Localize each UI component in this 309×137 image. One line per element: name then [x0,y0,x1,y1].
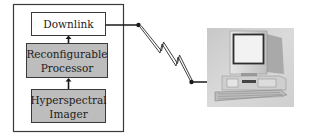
imager-block: Hyperspectral Imager [30,90,107,123]
imager-label-line2: Imager [49,108,88,120]
imager-label-line1: Hyperspectral [30,94,107,106]
processor-block: Reconfigurable Processor [26,44,107,78]
desktop-computer-icon [207,28,294,107]
wireless-link-bolt-icon [139,25,193,82]
downlink-label: Downlink [43,18,94,30]
processor-label-line2: Processor [41,62,95,74]
processor-label-line1: Reconfigurable [26,48,107,60]
downlink-block: Downlink [32,13,106,36]
system-diagram: Downlink Reconfigurable Processor Hypers… [0,0,309,137]
